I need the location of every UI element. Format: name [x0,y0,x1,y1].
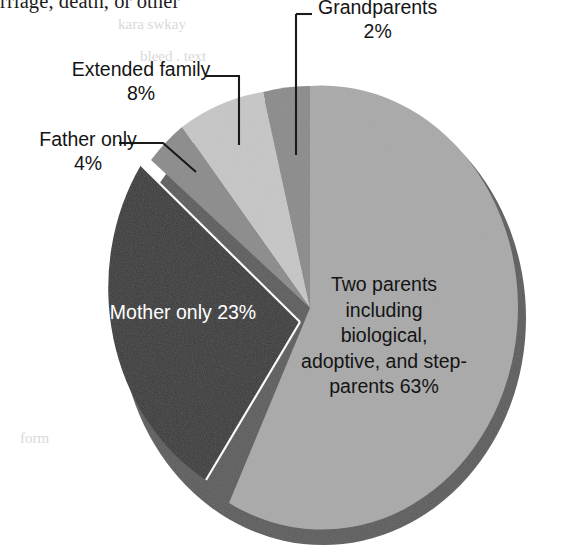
slice-label-mother-only-value: 23% [217,301,256,323]
slice-label-two-parents-line2: including [346,299,423,321]
slice-label-father-only-name: Father only [39,128,137,150]
slice-label-grandparents: Grandparents 2% [318,0,437,43]
slice-label-mother-only-name: Mother only [110,301,212,323]
slice-label-father-only: Father only 4% [8,128,168,175]
slice-label-extended-family-value: 8% [48,82,234,106]
slice-label-two-parents: Two parents including biological, adopti… [300,272,468,400]
slice-label-grandparents-value: 2% [318,20,437,44]
slice-label-father-only-value: 4% [8,152,168,176]
slice-label-mother-only: Mother only 23% [104,300,262,324]
slice-label-two-parents-line4: adoptive, and [301,350,418,372]
slice-label-grandparents-name: Grandparents [318,0,437,18]
slice-label-two-parents-value: 63% [400,375,439,397]
chart-page: rriage, death, or other kara swkay bleed… [0,0,579,551]
slice-label-extended-family: Extended family 8% [48,58,234,105]
slice-label-two-parents-line1: Two parents [331,273,437,295]
slice-label-two-parents-line3: biological, [341,324,428,346]
slice-label-extended-family-name: Extended family [72,58,211,80]
